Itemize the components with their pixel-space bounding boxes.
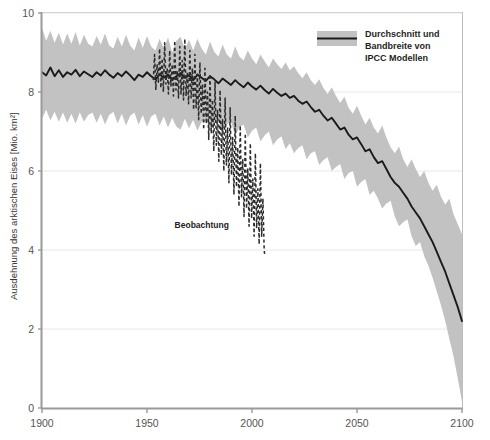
observation-annotation-label: Beobachtung xyxy=(175,220,229,230)
chart-figure: 1086420 19001950200020502100 Ausdehnung … xyxy=(0,0,490,440)
legend-label-line-1: Durchschnitt und xyxy=(365,29,440,39)
y-tick-label: 4 xyxy=(28,244,34,256)
y-axis-title: Ausdehnung des arktischen Eises [Mio. km… xyxy=(8,113,19,300)
y-tick-label: 8 xyxy=(28,86,34,98)
y-tick-label: 6 xyxy=(28,165,34,177)
x-tick-label: 2100 xyxy=(450,417,474,429)
y-tick-label: 2 xyxy=(28,323,34,335)
x-tick-label: 2050 xyxy=(345,417,369,429)
legend-label-line-3: IPCC Modellen xyxy=(365,53,428,63)
x-tick-label: 1900 xyxy=(30,417,54,429)
legend-label-line-2: Bandbreite von xyxy=(365,41,431,51)
y-tick-label: 10 xyxy=(22,7,34,19)
y-tick-label: 0 xyxy=(28,402,34,414)
x-tick-label: 2000 xyxy=(240,417,264,429)
arctic-sea-ice-extent-chart: 1086420 19001950200020502100 Ausdehnung … xyxy=(0,0,490,440)
x-tick-label: 1950 xyxy=(135,417,159,429)
